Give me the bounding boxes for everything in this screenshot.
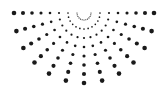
burst-dot: [66, 70, 70, 74]
burst-dot: [77, 14, 78, 15]
burst-dot: [72, 23, 74, 25]
burst-dot: [91, 26, 93, 28]
burst-dot: [47, 71, 52, 76]
burst-dot: [79, 28, 81, 30]
burst-dot: [83, 37, 85, 39]
burst-dot: [82, 19, 83, 20]
burst-dot: [45, 48, 49, 52]
burst-dot: [67, 12, 69, 14]
burst-dot: [59, 36, 62, 39]
burst-dot: [69, 20, 71, 22]
burst-dot: [101, 30, 103, 32]
radial-dot-burst-graphic: [0, 0, 168, 93]
burst-dot: [59, 18, 61, 20]
burst-dot: [112, 64, 116, 68]
burst-dot: [100, 41, 103, 44]
burst-dot: [125, 11, 128, 14]
burst-dot: [117, 71, 122, 76]
burst-dot: [78, 17, 79, 18]
burst-dot: [51, 64, 55, 68]
burst-dot: [82, 63, 86, 67]
burst-dot: [149, 29, 154, 34]
burst-dot: [134, 11, 138, 15]
burst-dot: [143, 11, 147, 15]
burst-dot: [77, 16, 78, 17]
burst-dot: [94, 23, 96, 25]
burst-dot: [75, 26, 77, 28]
burst-dot: [124, 23, 127, 26]
burst-dot: [91, 45, 94, 48]
burst-dot: [105, 24, 107, 26]
burst-dot: [21, 46, 26, 51]
burst-dot: [113, 42, 116, 45]
burst-dot: [95, 34, 97, 36]
burst-dot: [82, 54, 85, 57]
burst-dot: [29, 41, 33, 45]
burst-dot: [37, 37, 41, 41]
burst-dot: [96, 61, 100, 65]
burst-dot: [142, 46, 147, 51]
burst-dot: [112, 29, 115, 32]
burst-dot: [89, 16, 90, 17]
burst-dot: [132, 25, 136, 29]
burst-dot: [66, 41, 69, 44]
burst-dot: [69, 61, 73, 65]
burst-dot: [152, 11, 157, 16]
burst-dot: [108, 56, 112, 60]
burst-dot: [120, 33, 123, 36]
burst-dot: [76, 12, 77, 13]
burst-dot: [61, 24, 63, 26]
burst-dot: [87, 18, 88, 19]
burst-dot: [74, 45, 77, 48]
burst-dot: [141, 27, 145, 31]
burst-dot: [87, 28, 89, 30]
burst-dot: [117, 12, 120, 15]
dot-rays: [12, 11, 157, 86]
burst-dot: [39, 54, 43, 58]
burst-dot: [97, 20, 99, 22]
burst-dot: [135, 41, 139, 45]
burst-dot: [88, 17, 89, 18]
burst-dot: [61, 49, 64, 52]
burst-dot: [99, 16, 101, 18]
burst-dot: [107, 18, 109, 20]
burst-dot: [30, 11, 34, 15]
burst-dot: [32, 60, 37, 65]
burst-dot: [90, 12, 91, 13]
burst-dot: [82, 72, 86, 76]
burst-dot: [64, 78, 69, 83]
burst-dot: [68, 16, 70, 18]
burst-dot: [127, 37, 131, 41]
burst-dot: [41, 23, 44, 26]
burst-dot: [100, 78, 105, 83]
burst-dot: [70, 34, 72, 36]
burst-dot: [125, 54, 129, 58]
burst-dot: [83, 28, 85, 30]
burst-dot: [21, 11, 25, 15]
burst-dot: [80, 18, 81, 19]
burst-dot: [85, 19, 86, 20]
burst-dot: [71, 53, 74, 56]
burst-dot: [39, 11, 42, 14]
burst-dot: [52, 42, 55, 45]
burst-dot: [104, 49, 107, 52]
burst-dot: [76, 36, 78, 38]
burst-dot: [89, 36, 91, 38]
burst-dot: [116, 20, 119, 23]
burst-dot: [98, 70, 102, 74]
burst-dot: [58, 12, 60, 14]
burst-dot: [83, 46, 86, 49]
burst-dot: [32, 25, 36, 29]
burst-dot: [90, 14, 91, 15]
burst-dot: [53, 29, 56, 32]
burst-dot: [131, 60, 136, 65]
burst-dot: [99, 12, 101, 14]
burst-dot: [56, 56, 60, 60]
burst-dot: [94, 53, 97, 56]
burst-dot: [14, 29, 19, 34]
burst-dot: [12, 11, 17, 16]
burst-dot: [65, 30, 67, 32]
burst-dot: [49, 12, 52, 15]
burst-dot: [107, 36, 110, 39]
burst-dot: [108, 12, 110, 14]
